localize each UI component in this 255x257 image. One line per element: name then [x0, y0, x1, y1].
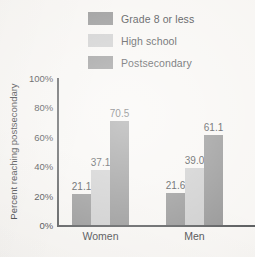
bar: 61.1 [204, 135, 223, 225]
y-axis-line [57, 78, 59, 226]
legend-item-high-school: High school [88, 31, 248, 50]
y-axis-tick-label: 100% [29, 73, 53, 84]
y-axis-tick-label: 20% [34, 190, 53, 201]
legend-label-grade-8-or-less: Grade 8 or less [121, 13, 194, 25]
chart-legend: Grade 8 or less High school Postsecondar… [88, 9, 248, 75]
bar: 39.0 [185, 168, 204, 225]
legend-item-postsecondary: Postsecondary [88, 53, 248, 72]
bar-value-label: 21.1 [72, 181, 91, 192]
y-axis-tick-label: 0% [39, 220, 53, 231]
y-axis-tick-label: 60% [34, 131, 53, 142]
y-axis-tick-label: 80% [34, 102, 53, 113]
y-axis-title: Percent reaching postsecondary [7, 78, 21, 225]
plot-area: 0%20%40%60%80%100% 21.137.170.521.639.06… [57, 78, 247, 225]
bar-value-label: 70.5 [110, 108, 129, 119]
legend-swatch-high-school [88, 34, 113, 47]
x-axis-group-label: Men [184, 230, 204, 242]
x-axis-line [57, 225, 255, 227]
bar-value-label: 61.1 [204, 122, 223, 133]
x-axis-group-label: Women [83, 230, 119, 242]
y-axis-tick-label: 40% [34, 161, 53, 172]
bar: 21.1 [72, 194, 91, 225]
legend-label-high-school: High school [121, 35, 177, 47]
legend-item-grade-8-or-less: Grade 8 or less [88, 9, 248, 28]
bar: 21.6 [166, 193, 185, 225]
bar-value-label: 39.0 [185, 155, 204, 166]
bar-value-label: 21.6 [166, 180, 185, 191]
chart-figure: Grade 8 or less High school Postsecondar… [0, 0, 255, 257]
bar: 37.1 [91, 170, 110, 225]
legend-swatch-grade-8-or-less [88, 12, 113, 25]
bar: 70.5 [110, 121, 129, 225]
bar-value-label: 37.1 [91, 157, 110, 168]
legend-swatch-postsecondary [88, 56, 113, 69]
legend-label-postsecondary: Postsecondary [121, 57, 192, 69]
